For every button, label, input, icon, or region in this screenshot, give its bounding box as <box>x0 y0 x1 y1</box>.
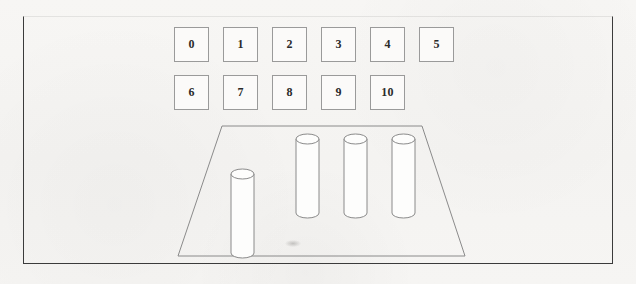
cylinder-body <box>231 174 254 258</box>
cylinder-2[interactable] <box>295 133 318 212</box>
scene-canvas: 012345678910 <box>0 0 636 284</box>
cylinder-top-ellipse <box>392 134 415 144</box>
cylinder-1[interactable] <box>230 168 253 252</box>
cylinder-top-ellipse <box>296 134 319 144</box>
cylinder-3[interactable] <box>343 133 366 212</box>
cylinder-4[interactable] <box>391 133 414 212</box>
cylinder-body <box>296 139 319 218</box>
cylinder-body <box>344 139 367 218</box>
cylinder-top-ellipse <box>344 134 367 144</box>
cylinder-top-ellipse <box>231 169 254 179</box>
cylinder-body <box>392 139 415 218</box>
cylinders-layer <box>0 0 636 284</box>
